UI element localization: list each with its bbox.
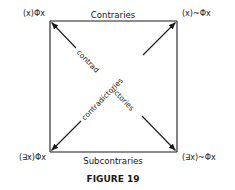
main-diagonal-segment-upper <box>52 23 77 49</box>
anti-diagonal-segment-lower <box>52 121 82 151</box>
particular-negative-formula: (∃x)~Φx <box>182 153 216 162</box>
main-diagonal-label-part1: contrad <box>75 48 101 75</box>
subcontraries-label: Subcontraries <box>83 156 143 166</box>
particular-affirmative-formula: (∃x)Φx <box>19 153 46 162</box>
universal-affirmative-formula: (x)Φx <box>23 9 45 18</box>
universal-negative-formula: (x)~Φx <box>182 9 211 18</box>
square-of-opposition-diagram: Contraries Subcontraries (x)Φx (x)~Φx (∃… <box>0 0 235 190</box>
anti-diagonal-segment-upper <box>143 23 176 56</box>
main-diagonal-segment-lower <box>142 116 176 151</box>
contraries-label: Contraries <box>91 10 136 20</box>
figure-caption: FIGURE 19 <box>87 174 140 184</box>
